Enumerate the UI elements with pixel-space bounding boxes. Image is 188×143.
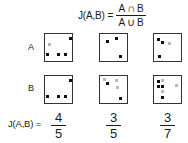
formula-denominator: A ∪ B: [116, 16, 145, 28]
result-fraction-column-2: 3 5: [99, 111, 128, 140]
result-numerator-column-1: 4: [44, 111, 73, 125]
set-point: [57, 53, 60, 56]
set-point: [64, 53, 67, 56]
set-point: [116, 86, 119, 89]
set-point: [57, 95, 60, 98]
set-point: [103, 78, 106, 81]
set-point: [161, 41, 164, 44]
set-b-box-column-2: [99, 75, 128, 104]
result-fraction-column-3: 3 7: [153, 111, 182, 140]
result-fraction-column-1: 4 5: [44, 111, 73, 140]
formula-left-hand-side: J(A,B): [78, 11, 105, 21]
set-b-box-column-3: [153, 75, 182, 104]
result-numerator-column-2: 3: [99, 111, 128, 125]
set-a-box-column-3: [153, 33, 182, 62]
set-point: [161, 96, 164, 99]
intersection-icon: ∩: [127, 3, 135, 14]
set-point: [119, 97, 122, 100]
set-point: [106, 82, 109, 85]
set-point: [69, 79, 72, 82]
set-point: [48, 43, 51, 46]
set-point: [161, 79, 164, 82]
set-point: [115, 79, 118, 82]
set-point: [64, 95, 67, 98]
set-point: [157, 80, 160, 83]
set-a-box-column-1: [44, 33, 73, 62]
set-point: [161, 90, 164, 93]
set-point: [46, 53, 49, 56]
set-point: [157, 38, 160, 41]
set-point: [119, 55, 122, 58]
result-denominator-column-1: 5: [44, 126, 73, 140]
formula-equals-sign: =: [108, 11, 114, 21]
result-denominator-column-3: 7: [153, 126, 182, 140]
result-denominator-column-2: 5: [99, 126, 128, 140]
result-numerator-column-3: 3: [153, 111, 182, 125]
set-point: [106, 40, 109, 43]
set-point: [168, 42, 171, 45]
jaccard-formula: J(A,B) = A ∩ B A ∪ B: [78, 3, 146, 28]
set-point: [175, 84, 178, 87]
formula-fraction: A ∩ B A ∪ B: [116, 3, 145, 28]
result-row-label: J(A,B) =: [8, 119, 41, 129]
set-point: [46, 95, 49, 98]
set-a-box-column-2: [99, 33, 128, 62]
set-point: [157, 85, 160, 88]
set-point: [161, 85, 164, 88]
set-point: [115, 37, 118, 40]
denominator-set-b: B: [137, 18, 144, 28]
formula-numerator: A ∩ B: [116, 3, 145, 15]
row-label-b: B: [28, 84, 34, 93]
numerator-set-a: A: [118, 4, 125, 14]
set-point: [69, 37, 72, 40]
row-label-a: A: [28, 43, 34, 52]
set-point: [158, 55, 161, 58]
numerator-set-b: B: [137, 4, 144, 14]
union-icon: ∪: [127, 17, 135, 28]
set-b-box-column-1: [44, 75, 73, 104]
jaccard-index-figure: J(A,B) = A ∩ B A ∪ B A B J(A,B) = 4 5: [0, 0, 188, 143]
denominator-set-a: A: [118, 18, 125, 28]
